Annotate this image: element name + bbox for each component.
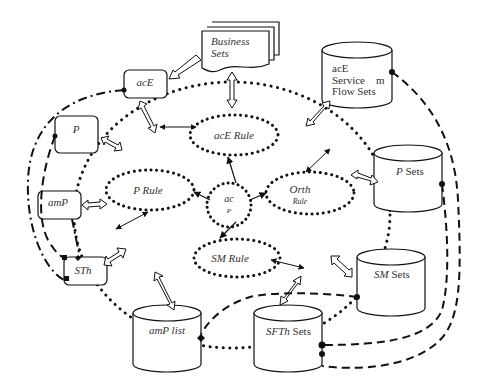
arrow-center-to-ace-rule (228, 157, 236, 183)
ace-label: acE (136, 76, 153, 88)
block-arrow-amp-boundary (82, 199, 107, 210)
orth-rule-label-1: Orth (290, 183, 311, 195)
sm-sets-label: SM Sets (374, 268, 410, 280)
p-node[interactable]: P (55, 116, 98, 153)
block-arrow-sth-boundary (104, 248, 126, 266)
ace-service-flow-sets-node[interactable]: acE Service m Flow Sets (322, 42, 392, 108)
arrow-center-to-orth-rule (250, 193, 266, 200)
business-sets-label-1: Business (211, 35, 250, 47)
connector-ace-service-to-sfth (322, 72, 460, 368)
sth-label: STh (74, 264, 92, 276)
block-arrow-ace-service-boundary (306, 101, 330, 126)
center-label-1: ac (224, 193, 234, 204)
sm-rule-node[interactable]: SM Rule (194, 239, 280, 277)
block-arrow-p-boundary (101, 136, 122, 151)
p-label: P (72, 123, 80, 135)
sfth-sets-node[interactable]: SFTh Sets (254, 305, 322, 372)
business-sets-node[interactable]: Business Sets (202, 22, 279, 72)
arrow-p-rule-boundary (116, 212, 148, 229)
orth-rule-label-2: Rule (292, 197, 308, 206)
p-sets-label-rest: Sets (403, 165, 424, 177)
orth-rule-node[interactable]: Orth Rule (266, 172, 354, 214)
center-label-2: P (226, 207, 232, 215)
ace-rule-label: acE Rule (214, 129, 254, 141)
sfth-sets-label: SFTh Sets (266, 325, 311, 337)
sm-sets-label-italic: SM (374, 268, 390, 280)
business-sets-label-2: Sets (211, 47, 229, 59)
amp-list-label: amP list (149, 324, 186, 336)
arrow-orth-rule-boundary (306, 149, 330, 172)
sm-sets-node[interactable]: SM Sets (357, 249, 425, 316)
block-arrow-sm-sets-boundary (331, 256, 352, 277)
ace-service-flow-sets-label-1: acE (332, 62, 349, 74)
sth-node[interactable]: STh (64, 257, 107, 285)
architecture-diagram: acE Rule P Rule Orth Rule SM Rule ac P B… (0, 0, 494, 391)
ace-service-flow-sets-label-3: Flow Sets (332, 85, 376, 97)
sfth-sets-label-rest: Sets (290, 325, 311, 337)
block-arrow-business-boundary (227, 72, 237, 108)
sfth-sets-label-italic: SFTh (266, 325, 290, 337)
block-arrow-business-to-ace (169, 55, 201, 79)
p-sets-node[interactable]: P Sets (374, 145, 442, 212)
p-rule-node[interactable]: P Rule (106, 170, 194, 210)
block-arrow-amp-list-boundary (154, 272, 175, 310)
rule-engine-boundary (74, 82, 390, 348)
amp-label: amP (48, 196, 68, 208)
center-node[interactable]: ac P (207, 183, 251, 227)
amp-list-node[interactable]: amP list (133, 305, 201, 372)
sm-rule-label: SM Rule (211, 252, 249, 264)
amp-node[interactable]: amP (38, 191, 81, 219)
p-rule-label: P Rule (132, 184, 163, 196)
block-arrow-sfth-boundary (280, 276, 301, 305)
sm-sets-label-rest: Sets (389, 268, 410, 280)
connector-amp-to-sth (72, 219, 80, 258)
block-arrow-ace-boundary (138, 101, 157, 133)
arrow-center-to-sm-rule (220, 222, 236, 238)
p-sets-label: P Sets (395, 165, 424, 177)
ace-rule-node[interactable]: acE Rule (190, 115, 278, 155)
ace-node[interactable]: acE (124, 70, 167, 98)
